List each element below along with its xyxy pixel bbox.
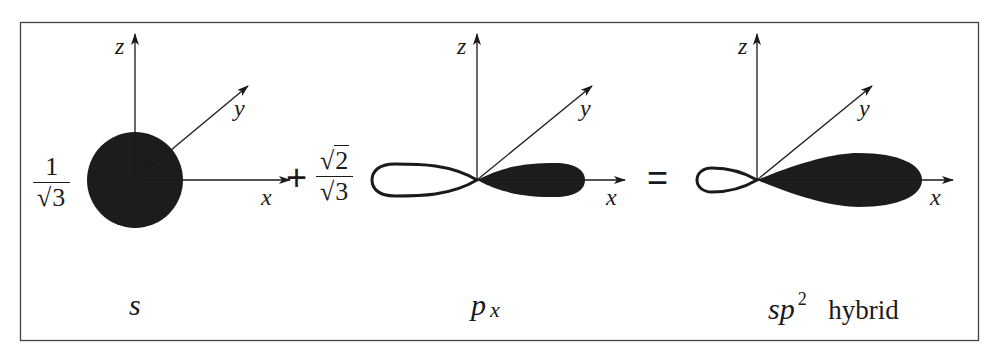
z-axis-label: z — [115, 34, 124, 58]
coefficient-numerator: 1 — [41, 154, 62, 182]
y-axis-label: y — [859, 96, 870, 120]
plus-operator: + — [286, 160, 307, 196]
y-axis-label: y — [580, 96, 591, 120]
coefficient-numerator: √2 — [316, 148, 353, 176]
y-axis — [135, 86, 248, 180]
sp2-caption-main: sp — [768, 292, 795, 325]
sqrt-symbol: √ — [320, 146, 334, 175]
sp2-minor-lobe — [697, 168, 757, 192]
z-axis-label: z — [738, 34, 747, 58]
sqrt-symbol: √ — [320, 177, 334, 206]
s-caption: s — [129, 290, 141, 320]
sqrt-symbol: √ — [37, 183, 51, 212]
sp2-caption-suffix: hybrid — [828, 295, 899, 325]
px-coefficient: √2 √3 — [316, 148, 353, 205]
x-axis-label: x — [930, 185, 941, 209]
px-negative-lobe — [372, 164, 477, 196]
sp2-caption: sp2 hybrid — [768, 290, 899, 324]
s-coefficient: 1 √3 — [33, 154, 70, 211]
equals-operator: = — [647, 160, 668, 196]
y-axis-label: y — [234, 96, 245, 120]
x-axis-label: x — [606, 185, 617, 209]
px-caption: px — [471, 290, 500, 321]
coefficient-denominator: √3 — [33, 182, 70, 211]
s-orbital-panel — [87, 34, 290, 228]
sp2-caption-superscript: 2 — [798, 289, 807, 309]
sp2-hybrid-panel — [697, 34, 953, 207]
px-caption-subscript: x — [490, 297, 500, 322]
coefficient-denominator: √3 — [316, 176, 353, 205]
x-axis-label: x — [261, 185, 272, 209]
z-axis-label: z — [457, 34, 466, 58]
